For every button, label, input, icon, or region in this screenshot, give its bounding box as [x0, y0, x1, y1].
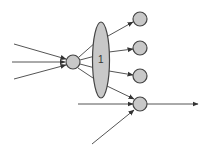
edge-grp-out1 — [108, 22, 133, 36]
network-diagram — [0, 0, 206, 154]
node-out3 — [133, 69, 147, 83]
node-out2 — [133, 41, 147, 55]
node-source — [66, 55, 80, 69]
node-out1 — [133, 12, 147, 26]
edge-grp-out2 — [109, 49, 133, 52]
group-label: 1 — [98, 55, 104, 65]
edge-in-bottom — [14, 65, 66, 79]
node-out4 — [133, 97, 147, 111]
edge-in-out4-d — [92, 110, 134, 144]
edge-in-top — [14, 44, 66, 59]
diagram-canvas: 1 — [0, 0, 206, 154]
edge-grp-out3 — [109, 71, 133, 75]
edge-grp-out4 — [107, 86, 134, 99]
